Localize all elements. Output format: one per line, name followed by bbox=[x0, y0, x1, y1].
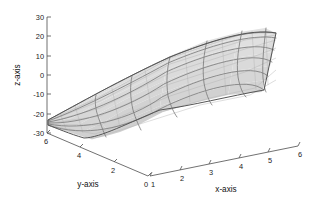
surface-faces bbox=[48, 28, 276, 139]
x-axis-title: x-axis bbox=[215, 185, 236, 194]
z-tick-label: 20 bbox=[36, 32, 44, 41]
y-tick-label: 0 bbox=[144, 180, 148, 189]
z-tick-label: 10 bbox=[36, 52, 44, 61]
z-tick-label: 30 bbox=[36, 13, 44, 22]
plot-canvas: 30 20 10 0 -10 -20 -30 z-axis 6 4 2 0 y-… bbox=[0, 0, 312, 204]
z-tick-label: 0 bbox=[40, 71, 44, 80]
y-axis-line bbox=[47, 133, 148, 176]
y-axis-title: y-axis bbox=[77, 180, 98, 189]
y-tick-label: 6 bbox=[44, 137, 48, 146]
z-tick-label: -20 bbox=[33, 110, 44, 119]
y-tick-label: 2 bbox=[111, 166, 115, 175]
x-tick-label: 5 bbox=[268, 156, 272, 165]
y-tick bbox=[47, 130, 50, 133]
y-tick bbox=[80, 144, 83, 147]
z-axis-title: z-axis bbox=[13, 64, 22, 85]
surface-plot-figure: 30 20 10 0 -10 -20 -30 z-axis 6 4 2 0 y-… bbox=[0, 0, 312, 204]
x-tick-label: 3 bbox=[209, 168, 213, 177]
x-axis: 1 2 3 4 5 6 x-axis bbox=[150, 142, 302, 194]
x-tick-label: 6 bbox=[298, 150, 302, 159]
x-tick bbox=[298, 142, 300, 146]
y-axis: 6 4 2 0 y-axis bbox=[44, 130, 151, 189]
y-tick bbox=[114, 159, 117, 162]
x-tick-label: 2 bbox=[180, 174, 184, 183]
x-tick-label: 1 bbox=[151, 180, 155, 189]
z-axis: 30 20 10 0 -10 -20 -30 z-axis bbox=[13, 13, 51, 138]
surface-mesh bbox=[48, 28, 276, 139]
x-axis-line bbox=[150, 146, 298, 176]
z-tick-label: -10 bbox=[33, 90, 44, 99]
z-tick-label: -30 bbox=[33, 129, 44, 138]
x-tick-label: 4 bbox=[239, 162, 243, 171]
y-tick-label: 4 bbox=[77, 151, 81, 160]
